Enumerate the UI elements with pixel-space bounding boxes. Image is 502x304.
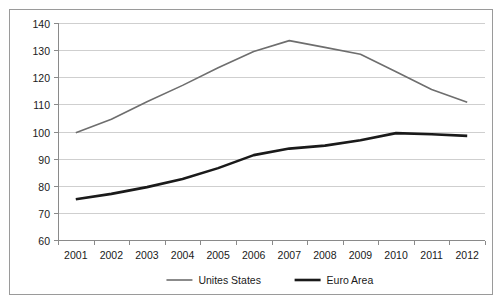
x-tick-label: 2002 (100, 249, 124, 261)
x-tick-label: 2011 (420, 249, 443, 261)
y-tick-label: 80 (38, 181, 50, 193)
x-tick-label: 2010 (384, 249, 408, 261)
y-tick-label: 140 (32, 18, 50, 30)
series-line-euro-area (76, 133, 467, 199)
x-tick-label: 2005 (206, 249, 230, 261)
x-tick-label: 2006 (242, 249, 266, 261)
chart-frame: 60708090100110120130140 2001200220032004… (9, 9, 493, 295)
y-tick-label: 60 (38, 235, 50, 247)
gridlines (58, 24, 485, 241)
x-tick-label: 2001 (64, 249, 88, 261)
series-line-unites-states (76, 41, 467, 133)
plot-area: 60708090100110120130140 2001200220032004… (10, 10, 494, 296)
y-tick-label: 110 (33, 99, 50, 111)
chart-legend: Unites StatesEuro Area (166, 274, 373, 286)
x-axis-tick-labels: 2001200220032004200520062007200820092010… (64, 249, 479, 261)
x-tick-label: 2003 (135, 249, 159, 261)
chart-figure: 60708090100110120130140 2001200220032004… (0, 0, 502, 304)
x-tick-label: 2007 (278, 249, 302, 261)
y-axis-tick-labels: 60708090100110120130140 (32, 18, 50, 247)
legend-label-euro-area: Euro Area (327, 274, 374, 286)
x-tick-label: 2012 (456, 249, 480, 261)
y-tick-label: 130 (32, 45, 50, 57)
x-tick-label: 2004 (171, 249, 195, 261)
data-series (76, 41, 467, 200)
x-tick-label: 2008 (313, 249, 337, 261)
y-tick-label: 70 (38, 208, 50, 220)
y-tick-label: 120 (32, 72, 50, 84)
y-tick-label: 90 (38, 154, 50, 166)
y-tick-label: 100 (32, 127, 50, 139)
line-chart: 60708090100110120130140 2001200220032004… (10, 10, 494, 296)
x-tick-label: 2009 (349, 249, 373, 261)
legend-label-unites-states: Unites States (198, 274, 260, 286)
